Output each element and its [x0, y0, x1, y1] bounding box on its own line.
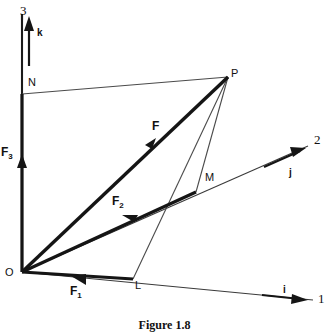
unit-vector-j-label: j — [289, 168, 292, 178]
axis-3-label: 3 — [20, 4, 27, 17]
force-F-label: F — [152, 120, 159, 132]
point-O-label: O — [5, 267, 14, 278]
unit-vector-i-label: i — [283, 285, 286, 295]
edge-N-P — [22, 77, 228, 94]
force-F1-subscript: 1 — [77, 291, 81, 300]
figure-caption: Figure 1.8 — [0, 318, 329, 333]
force-F3-subscript: 3 — [8, 152, 12, 161]
axis-1-label: 1 — [318, 292, 325, 305]
point-P-label: P — [231, 68, 238, 79]
point-L-label: L — [135, 280, 141, 291]
force-F2-line — [22, 192, 196, 272]
force-F-base: F — [152, 119, 159, 133]
force-F3-label: F3 — [1, 146, 13, 161]
force-F-line — [22, 77, 228, 272]
force-F2-label: F2 — [112, 195, 124, 210]
force-F2-subscript: 2 — [119, 201, 123, 210]
point-N-label: N — [28, 77, 36, 88]
unit-vector-k-arrowhead — [24, 16, 34, 31]
force-F1-label: F1 — [70, 285, 82, 300]
force-F3-arrowhead — [17, 154, 27, 168]
axis-2-label: 2 — [314, 133, 321, 146]
unit-vector-k-label: k — [37, 28, 43, 38]
point-M-label: M — [205, 172, 214, 183]
